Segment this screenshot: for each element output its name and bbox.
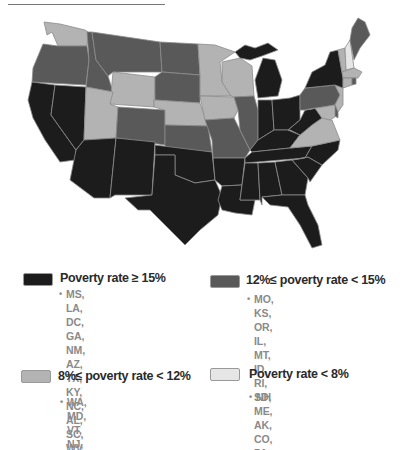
state-ia (200, 96, 238, 120)
state-nd (160, 42, 200, 75)
legend-swatch-12to15 (210, 275, 240, 288)
bullet-icon: • (59, 287, 62, 301)
bullet-icon: • (60, 395, 63, 409)
bullet-icon: • (247, 292, 250, 306)
state-ct (343, 78, 352, 88)
state-wa (44, 22, 88, 46)
legend-states: • WA, MD, VT, NJ, VA, MA, MN, IA, NE, UT… (67, 395, 87, 450)
legend-swatch-lt8 (210, 368, 240, 381)
state-me (350, 18, 370, 60)
state-ar (213, 158, 245, 186)
legend-title: 12%≤ poverty rate < 15% (246, 273, 385, 287)
legend-title: 8%≤ poverty rate < 12% (58, 369, 191, 383)
state-wy (110, 72, 155, 107)
legend-title: Poverty rate < 8% (249, 367, 348, 381)
state-mi-upper (235, 43, 278, 60)
bullet-icon: • (249, 390, 252, 404)
state-ri (352, 78, 356, 85)
us-poverty-map (0, 0, 410, 250)
state-sd (155, 72, 200, 103)
legend-title: Poverty rate ≥ 15% (60, 271, 166, 285)
legend-swatch-ge15 (23, 273, 53, 286)
legend-states: • NH (256, 390, 271, 404)
state-ny (305, 50, 343, 88)
state-fl (262, 195, 322, 248)
state-mi (255, 58, 282, 98)
state-nm (110, 138, 155, 198)
state-or (32, 44, 89, 85)
legend-swatch-8to12 (21, 370, 51, 383)
